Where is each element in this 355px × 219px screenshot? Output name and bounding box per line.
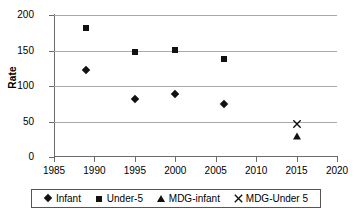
legend-entry-mdg-infant[interactable]: MDG-infant (157, 194, 220, 204)
data-point-mdg-infant-2015 (293, 132, 301, 139)
x-tick-2000 (175, 157, 176, 162)
x-tick-label-2005: 2005 (196, 165, 236, 176)
x-tick-label-2020: 2020 (317, 165, 355, 176)
legend-label: MDG-Under 5 (246, 194, 308, 204)
gridline-y-200 (54, 15, 337, 16)
x-tick-1990 (94, 157, 95, 162)
y-tick-50 (49, 122, 54, 123)
x-tick-label-1995: 1995 (115, 165, 155, 176)
plot-area: 0501001502001985199019952000200520102015… (54, 15, 337, 157)
x-tick-2020 (337, 157, 338, 162)
gridline-y-100 (54, 86, 337, 87)
y-tick-label-100: 100 (4, 81, 34, 91)
data-point-under-5-2006 (221, 56, 227, 62)
legend-label: MDG-infant (169, 194, 220, 204)
y-tick-label-0: 0 (4, 152, 34, 162)
y-tick-label-50: 50 (4, 117, 34, 127)
legend-entry-under-5[interactable]: Under-5 (95, 194, 143, 204)
data-point-infant-1995 (131, 95, 139, 103)
x-marker-icon (234, 194, 243, 203)
chart-legend: InfantUnder-5MDG-infantMDG-Under 5 (31, 189, 321, 208)
x-tick-label-2015: 2015 (277, 165, 317, 176)
data-point-infant-2006 (220, 100, 228, 108)
y-tick-label-200: 200 (4, 10, 34, 20)
x-tick-1985 (54, 157, 55, 162)
x-tick-label-2010: 2010 (236, 165, 276, 176)
y-tick-100 (49, 86, 54, 87)
legend-entry-infant[interactable]: Infant (44, 194, 81, 204)
x-tick-label-1985: 1985 (34, 165, 74, 176)
square-marker-icon (95, 194, 104, 203)
data-point-under-5-1989 (83, 25, 89, 31)
x-tick-label-2000: 2000 (155, 165, 195, 176)
y-axis-title: Rate (7, 48, 18, 108)
x-tick-2015 (297, 157, 298, 162)
legend-label: Under-5 (107, 194, 143, 204)
legend-entry-mdg-under-5[interactable]: MDG-Under 5 (234, 194, 308, 204)
x-tick-2005 (216, 157, 217, 162)
x-tick-label-1990: 1990 (74, 165, 114, 176)
data-point-infant-2000 (171, 90, 179, 98)
data-point-under-5-2000 (172, 47, 178, 53)
gridline-y-150 (54, 51, 337, 52)
data-point-infant-1989 (82, 66, 90, 74)
y-tick-150 (49, 51, 54, 52)
x-tick-2010 (256, 157, 257, 162)
chart-container: Rate 05010015020019851990199520002005201… (0, 0, 355, 219)
x-tick-1995 (135, 157, 136, 162)
data-point-under-5-1995 (132, 49, 138, 55)
diamond-marker-icon (44, 194, 53, 203)
y-tick-200 (49, 15, 54, 16)
legend-label: Infant (56, 194, 81, 204)
y-tick-label-150: 150 (4, 46, 34, 56)
data-point-mdg-under-5-2015 (292, 115, 301, 124)
triangle-marker-icon (157, 194, 166, 203)
